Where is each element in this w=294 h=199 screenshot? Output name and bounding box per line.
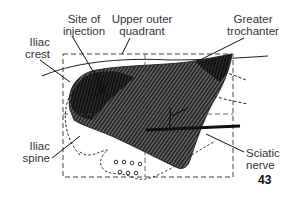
label-iliac-crest: Iliac crest xyxy=(14,36,50,60)
label-line: Iliac xyxy=(14,36,50,48)
gluteal-muscle xyxy=(69,54,232,169)
label-line: Sciatic xyxy=(246,147,294,159)
label-line: nerve xyxy=(246,159,294,171)
label-line: quadrant xyxy=(102,25,182,37)
sacral-foramina xyxy=(114,160,142,175)
gluteal-diagram: Site of injection Upper outer quadrant G… xyxy=(0,0,294,199)
figure-number: 43 xyxy=(258,173,271,187)
label-line: spine xyxy=(14,152,50,164)
label-line: Greater xyxy=(218,13,288,25)
label-iliac-spine: Iliac spine xyxy=(14,140,50,164)
label-line: Iliac xyxy=(14,140,50,152)
label-line: trochanter xyxy=(218,25,288,37)
label-upper-outer-quadrant: Upper outer quadrant xyxy=(102,13,182,37)
label-greater-trochanter: Greater trochanter xyxy=(218,13,288,37)
label-line: crest xyxy=(14,48,50,60)
label-sciatic-nerve: Sciatic nerve xyxy=(246,147,294,171)
label-line: Upper outer xyxy=(102,13,182,25)
